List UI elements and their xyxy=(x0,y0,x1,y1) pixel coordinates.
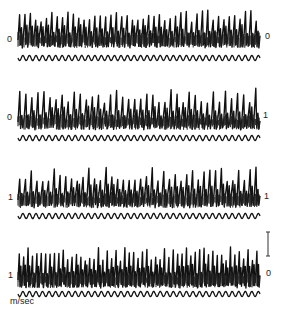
panel-1-right-label: 0 xyxy=(265,31,270,41)
panel-2-reference-sinusoid xyxy=(18,135,260,140)
panel-1-left-label: 0 xyxy=(7,34,12,44)
velocity-unit-label: m/sec xyxy=(10,296,34,306)
panel-3-left-label: 1 xyxy=(8,192,13,202)
panel-1 xyxy=(18,10,260,60)
panel-1-reference-sinusoid xyxy=(18,55,260,60)
panel-3-right-label: 1 xyxy=(264,191,269,201)
panel-4-left-label: 1 xyxy=(8,270,13,280)
panel-2-right-label: 1 xyxy=(263,110,268,120)
panel-3-reference-sinusoid xyxy=(18,213,260,218)
scale-bar xyxy=(266,232,270,256)
panel-3 xyxy=(18,167,260,218)
panel-4-right-label: 0 xyxy=(266,268,271,278)
oscillogram-figure xyxy=(0,0,286,324)
panel-4-reference-sinusoid xyxy=(18,291,260,296)
panel-2 xyxy=(18,88,260,140)
panel-4 xyxy=(18,232,270,297)
panel-2-left-label: 0 xyxy=(7,112,12,122)
